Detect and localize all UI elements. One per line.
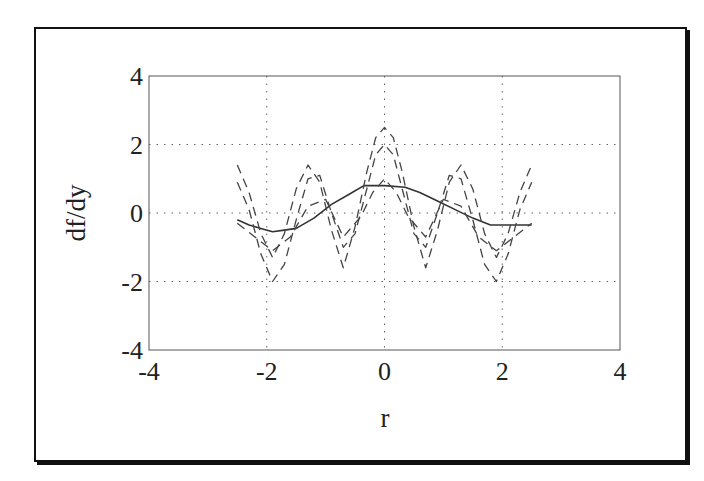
y-axis-label: df/dy [61, 184, 91, 241]
x-tick-label: -2 [256, 357, 278, 386]
y-tick-label: -4 [121, 336, 143, 365]
y-tick-labels: -4-2024 [121, 62, 143, 365]
y-tick-label: 4 [130, 62, 143, 91]
x-axis-label: r [381, 403, 390, 433]
grid-lines [149, 76, 620, 350]
series-dashed-1 [237, 127, 531, 267]
x-tick-label: 4 [614, 357, 627, 386]
x-tick-labels: -4-2024 [138, 357, 626, 386]
y-tick-label: 2 [130, 131, 143, 160]
x-tick-label: 2 [496, 357, 509, 386]
line-chart: -4-2024 -4-2024 r df/dy [0, 0, 704, 481]
y-tick-label: 0 [130, 199, 143, 228]
series-solid [237, 186, 531, 232]
y-tick-label: -2 [121, 268, 143, 297]
x-tick-label: 0 [378, 357, 391, 386]
